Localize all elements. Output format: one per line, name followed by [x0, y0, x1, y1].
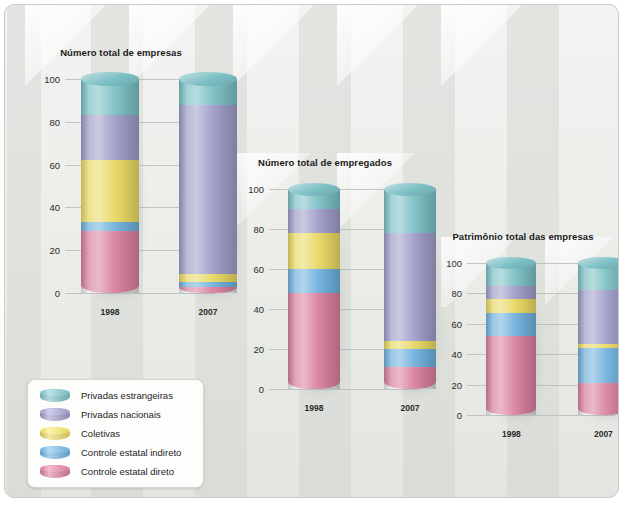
bar-segment [288, 209, 340, 233]
bar-segment [486, 336, 536, 415]
x-axis-category-label: 1998 [502, 429, 521, 439]
cylinder-shading [288, 293, 340, 389]
legend-swatch-icon [40, 465, 70, 478]
bar-segment [578, 344, 619, 349]
x-axis-category-label: 2007 [401, 403, 420, 413]
bar-segment [486, 313, 536, 336]
cap-shading [578, 257, 619, 269]
cylinder-shading [486, 313, 536, 336]
bar-segment [578, 290, 619, 343]
cylinder-top-cap [486, 257, 536, 269]
bar-segment [578, 348, 619, 383]
cylinder-top-cap [384, 183, 436, 196]
fold-highlight [441, 5, 527, 97]
chart-title: Número total de empresas [23, 47, 219, 58]
y-axis-tick-label: 40 [49, 202, 60, 213]
y-axis-tick-label: 60 [253, 264, 264, 275]
cylinder-shading [81, 222, 139, 231]
cylinder-top-cap [179, 72, 237, 86]
plot-area: 02040608010019982007 [65, 79, 215, 293]
legend-item-controle_estatal_indireto[interactable]: Controle estatal indireto [28, 443, 203, 462]
bar-segment [81, 115, 139, 160]
legend-item-label: Privadas estrangeiras [81, 390, 173, 401]
cylinder-shading [486, 336, 536, 415]
legend-swatch-shading [40, 389, 70, 402]
bar-cylinder [288, 189, 340, 389]
legend-item-label: Controle estatal indireto [81, 447, 181, 458]
y-axis-tick-label: 20 [253, 344, 264, 355]
cylinder-shading [81, 231, 139, 293]
cap-shading [384, 183, 436, 196]
plot-area: 02040608010019982007 [269, 189, 419, 389]
cylinder-shading [81, 115, 139, 160]
y-axis-tick-label: 0 [55, 288, 60, 299]
x-axis-category-label: 2007 [594, 429, 613, 439]
y-axis-tick-label: 20 [49, 245, 60, 256]
cylinder-top-cap [578, 257, 619, 269]
x-axis-category-label: 1998 [101, 307, 120, 317]
bar-segment [486, 286, 536, 300]
legend-item-label: Privadas nacionais [81, 409, 161, 420]
chart-empresas: Número total de empresas0204060801001998… [23, 47, 219, 327]
legend-swatch-shading [40, 408, 70, 421]
cylinder-shading [578, 344, 619, 349]
legend-item-label: Controle estatal direto [81, 466, 174, 477]
cylinder-shading [578, 290, 619, 343]
y-axis-tick-label: 40 [253, 304, 264, 315]
cylinder-shading [486, 286, 536, 300]
legend-item-privadas_estrangeiras[interactable]: Privadas estrangeiras [28, 386, 203, 405]
bar-cylinder [486, 263, 536, 415]
bar-segment [81, 160, 139, 222]
cylinder-shading [81, 160, 139, 222]
legend-item-label: Coletivas [81, 428, 120, 439]
cylinder-shading [384, 189, 436, 233]
chart-legend: Privadas estrangeirasPrivadas nacionaisC… [27, 379, 204, 488]
y-axis-tick-label: 100 [446, 258, 462, 269]
y-axis-tick-label: 100 [44, 74, 60, 85]
cylinder-shading [288, 233, 340, 269]
y-axis-tick-label: 0 [259, 384, 264, 395]
legend-swatch-shading [40, 465, 70, 478]
y-axis-tick-label: 60 [451, 318, 462, 329]
y-axis-tick-label: 20 [451, 379, 462, 390]
y-axis-tick-label: 40 [451, 349, 462, 360]
cylinder-shading [288, 269, 340, 293]
legend-item-coletivas[interactable]: Coletivas [28, 424, 203, 443]
plot-area: 02040608010019982007 [467, 263, 615, 415]
figure-frame: Número total de empresas0204060801001998… [4, 4, 619, 498]
cap-shading [486, 257, 536, 269]
cylinder-top-cap [288, 183, 340, 196]
legend-swatch-shading [40, 427, 70, 440]
fold-highlight [337, 5, 423, 97]
bar-segment [288, 293, 340, 389]
legend-swatch-shading [40, 446, 70, 459]
bar-cylinder [81, 79, 139, 293]
figure-page: Número total de empresas0204060801001998… [0, 0, 625, 516]
y-axis-tick-label: 60 [49, 159, 60, 170]
fold-highlight [233, 5, 319, 97]
y-axis-tick-label: 0 [457, 410, 462, 421]
chart-empregados: Número total de empregados02040608010019… [227, 157, 423, 423]
bar-segment [578, 383, 619, 415]
bar-segment [384, 189, 436, 233]
x-axis-category-label: 1998 [305, 403, 324, 413]
legend-item-privadas_nacionais[interactable]: Privadas nacionais [28, 405, 203, 424]
bar-segment [81, 231, 139, 293]
bar-segment [486, 299, 536, 313]
bar-cylinder [578, 263, 619, 415]
y-axis-tick-label: 100 [248, 184, 264, 195]
legend-swatch-icon [40, 427, 70, 440]
cap-shading [81, 72, 139, 86]
y-axis-tick-label: 80 [49, 116, 60, 127]
chart-title: Patrimônio total das empresas [425, 231, 619, 242]
cylinder-shading [486, 299, 536, 313]
legend-swatch-icon [40, 446, 70, 459]
cylinder-shading [288, 209, 340, 233]
cap-shading [288, 183, 340, 196]
bar-segment [288, 233, 340, 269]
bar-segment [288, 269, 340, 293]
legend-swatch-icon [40, 408, 70, 421]
legend-item-controle_estatal_direto[interactable]: Controle estatal direto [28, 462, 203, 481]
cylinder-shading [578, 383, 619, 415]
chart-patrimonio: Patrimônio total das empresas02040608010… [425, 231, 619, 449]
